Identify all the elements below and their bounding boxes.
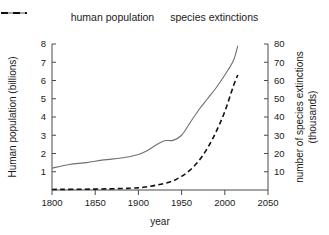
y-left-tick-label: 8 <box>41 38 46 49</box>
y-left-tick-label: 7 <box>41 57 46 68</box>
y-left-tick-label: 4 <box>41 111 46 122</box>
y-axis-left-label: Human population (billions) <box>7 56 18 177</box>
x-tick-label: 1800 <box>41 197 62 208</box>
y-left-tick-label: 1 <box>41 166 46 177</box>
x-tick-label: 1950 <box>171 197 192 208</box>
y-right-tick-label: 30 <box>274 130 285 141</box>
x-tick-label: 1900 <box>128 197 149 208</box>
y-right-tick-label: 60 <box>274 75 285 86</box>
x-tick-label: 1850 <box>85 197 106 208</box>
x-axis-ticks: 180018501900195020002050 <box>41 190 278 208</box>
y-axis-left-ticks: 12345678 <box>41 38 56 177</box>
y-left-tick-label: 3 <box>41 130 46 141</box>
y-axis-right-ticks: 1020304050607080 <box>264 38 285 177</box>
y-right-tick-label: 70 <box>274 57 285 68</box>
chart-canvas: 12345678 1020304050607080 18001850190019… <box>0 0 329 235</box>
y-right-tick-label: 50 <box>274 93 285 104</box>
y-right-tick-label: 40 <box>274 111 285 122</box>
chart-figure: human population species extinctions 123… <box>0 0 329 235</box>
y-axis-right-label-line2: (thousands) <box>307 91 318 144</box>
x-tick-label: 2000 <box>214 197 235 208</box>
y-right-tick-label: 10 <box>274 166 285 177</box>
y-left-tick-label: 2 <box>41 148 46 159</box>
y-axis-right-label-line1: number of species extinctions <box>294 51 305 183</box>
plot-frame <box>52 44 268 190</box>
x-axis-label: year <box>150 216 170 227</box>
y-left-tick-label: 6 <box>41 75 46 86</box>
y-right-tick-label: 20 <box>274 148 285 159</box>
x-tick-label: 2050 <box>257 197 278 208</box>
y-right-tick-label: 80 <box>274 38 285 49</box>
series-line-species-extinctions <box>52 75 238 189</box>
series-line-human-population <box>52 46 238 168</box>
y-left-tick-label: 5 <box>41 93 46 104</box>
